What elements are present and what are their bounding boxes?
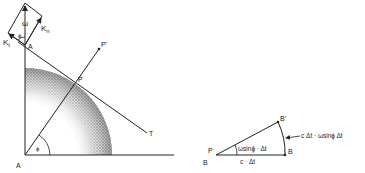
displacement-triangle-diagram: P B B B' ωsinϕ · Δt c · Δt c Δt · ωsinϕ … [203, 115, 343, 166]
b-prime-label: B' [280, 115, 286, 122]
p-label: P [78, 76, 83, 83]
angle-label: ωsinϕ · Δt [238, 145, 267, 153]
base-label: c · Δt [240, 158, 255, 165]
arc-label: c Δt · ωsinϕ Δt [301, 132, 343, 140]
p-prime-label: P' [101, 41, 107, 48]
b-right-label: B [288, 148, 293, 155]
b-prime-point [277, 121, 280, 124]
p-prime-point [98, 48, 101, 51]
earth-section-diagram: ω ϕ Kt Kn A P P' T A ϕ [3, 3, 174, 169]
a-bottom-label: A [16, 162, 21, 169]
b-left-label: B [203, 159, 208, 166]
a-top-label: A [28, 43, 33, 50]
arc-b-b-prime [278, 122, 285, 155]
phi-top-label: ϕ [18, 33, 22, 39]
t-label: T [149, 130, 154, 137]
b-point [284, 154, 287, 157]
arc-pointer-arrow [286, 136, 300, 138]
kt-label: Kt [3, 38, 10, 48]
physics-diagram: ω ϕ Kt Kn A P P' T A ϕ P B B B' ωsinϕ · … [0, 0, 365, 173]
kn-label: Kn [41, 24, 50, 34]
kt-arrow [9, 34, 25, 45]
p-right-label: P [208, 147, 213, 154]
omega-label: ω [22, 19, 28, 28]
angle-arc [235, 145, 237, 155]
